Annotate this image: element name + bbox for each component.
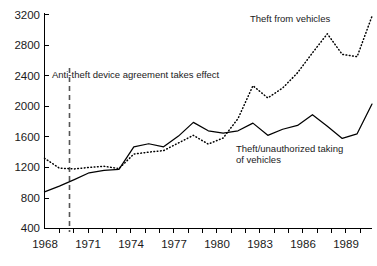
y-tick-label-800: 800 — [21, 192, 40, 204]
y-tick-label-2800: 2800 — [14, 39, 40, 51]
x-tick-label-1980: 1980 — [204, 238, 230, 250]
y-tick-label-400: 400 — [21, 222, 40, 234]
x-tick-label-1986: 1986 — [290, 238, 316, 250]
x-tick-label-1983: 1983 — [247, 238, 273, 250]
series-label-theft-of-vehicles-line2: of vehicles — [236, 154, 281, 165]
series-label-theft-of-vehicles-line1: Theft/unauthorized taking — [236, 143, 343, 154]
y-tick-label-2000: 2000 — [14, 100, 40, 112]
line-chart: 400 800 1200 1600 2000 2400 2800 3200 — [0, 0, 377, 266]
x-tick-label-1989: 1989 — [333, 238, 359, 250]
chart-container: 400 800 1200 1600 2000 2400 2800 3200 — [0, 0, 377, 266]
y-tick-label-1200: 1200 — [14, 161, 40, 173]
series-label-theft-from-vehicles: Theft from vehicles — [250, 13, 330, 24]
anti-theft-event-label: Anti-theft device agreement takes effect — [52, 69, 220, 80]
x-tick-label-1971: 1971 — [75, 238, 101, 250]
y-tick-label-3200: 3200 — [14, 9, 40, 21]
chart-background — [0, 0, 377, 266]
y-tick-label-2400: 2400 — [14, 70, 40, 82]
y-tick-label-1600: 1600 — [14, 131, 40, 143]
x-tick-label-1977: 1977 — [161, 238, 187, 250]
x-tick-label-1974: 1974 — [118, 238, 144, 250]
x-tick-label-1968: 1968 — [32, 238, 58, 250]
